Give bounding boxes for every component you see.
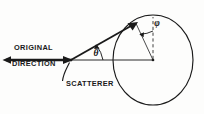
- scatterer-label: SCATTERER: [66, 79, 114, 88]
- original-direction-line1-label: ORIGINAL: [14, 43, 53, 52]
- sphere-radius-line: [136, 24, 153, 61]
- sphere-center-point: [152, 59, 155, 62]
- diagram-canvas: θ φ ORIGINAL DIRECTION SCATTERER: [0, 0, 204, 114]
- original-direction-line2-label: DIRECTION: [12, 59, 56, 68]
- theta-symbol-label: θ: [94, 48, 99, 58]
- incident-beam-left-arrowhead: [3, 56, 12, 64]
- scattering-diagram-figure: θ φ ORIGINAL DIRECTION SCATTERER: [0, 0, 204, 114]
- phi-symbol-label: φ: [154, 18, 160, 28]
